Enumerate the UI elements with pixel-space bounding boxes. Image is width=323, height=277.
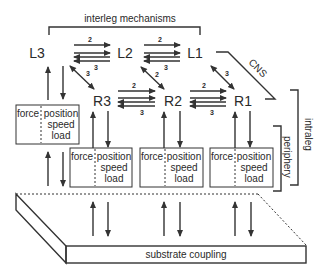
link-L2-L1: 2 3 [144,36,180,71]
sensor-box-L3: force position speed load [16,105,79,144]
R1-substrate-arrows [235,202,251,236]
node-L2: L2 [117,45,133,61]
svg-text:2: 2 [132,82,136,89]
svg-text:2: 2 [158,36,162,43]
R3-substrate-arrows [93,202,108,236]
substrate-label: substrate coupling [145,249,226,260]
link-L2-R2: 2 [141,67,164,89]
svg-text:force: force [141,151,164,162]
svg-text:speed: speed [100,162,127,173]
R2-substrate-arrows [164,202,180,236]
svg-text:position: position [167,151,201,162]
link-L3-L2: 2 3 [74,36,110,71]
svg-text:3: 3 [210,109,214,116]
L3-sensor-arrows [48,66,63,100]
node-R2: R2 [164,93,182,109]
svg-text:2: 2 [202,82,206,89]
svg-text:load: load [105,173,124,184]
svg-text:3: 3 [164,64,168,71]
sensor-box-R1: force position speed load [210,148,273,187]
svg-text:load: load [245,173,264,184]
node-R1: R1 [234,93,252,109]
interleg-title: interleg mechanisms [84,13,176,24]
L3-substrate-arrows [48,152,63,186]
R2-sensor-arrows [164,111,180,148]
svg-text:load: load [52,130,71,141]
intraleg-label: intraleg [303,118,314,151]
periphery-label: periphery [282,136,293,178]
svg-text:load: load [175,173,194,184]
svg-text:3: 3 [94,64,98,71]
svg-text:force: force [211,151,234,162]
substrate-plane: substrate coupling [16,194,306,263]
leg-coordination-diagram: interleg mechanisms L3 L2 L1 R3 R2 R1 2 … [0,0,323,277]
svg-text:speed: speed [170,162,197,173]
R3-sensor-arrows [93,111,108,148]
node-L1: L1 [187,45,203,61]
svg-text:force: force [17,108,40,119]
link-L3-R3: 3 [70,66,94,89]
svg-text:position: position [237,151,271,162]
periphery-bracket: periphery [273,126,293,191]
link-R2-R1: 2 3 [190,82,226,116]
sensor-box-R3: force position speed load [70,148,132,187]
svg-text:force: force [71,151,94,162]
svg-text:2: 2 [155,71,159,78]
sensor-box-R2: force position speed load [140,148,203,187]
svg-text:position: position [97,151,131,162]
R1-sensor-arrows [235,111,250,148]
svg-text:3: 3 [86,70,90,77]
link-L1-R1: 3 [211,66,234,89]
link-R3-R2: 2 3 [118,82,155,116]
svg-text:position: position [44,108,78,119]
svg-text:3: 3 [140,109,144,116]
interleg-bracket: interleg mechanisms [49,13,200,35]
svg-text:speed: speed [47,119,74,130]
svg-text:speed: speed [240,162,267,173]
node-R3: R3 [93,93,111,109]
cns-label: CNS [247,57,270,80]
node-L3: L3 [29,45,45,61]
svg-text:3: 3 [225,70,229,77]
svg-text:2: 2 [88,36,92,43]
